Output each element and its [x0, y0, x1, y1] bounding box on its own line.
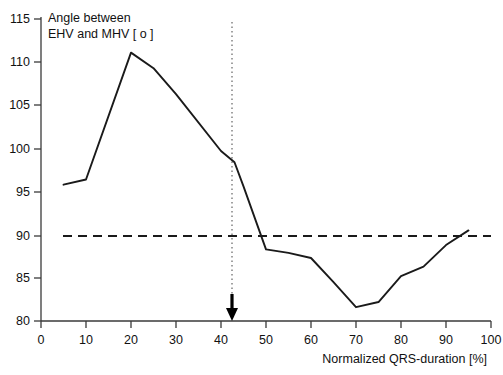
y-tick-label-95: 95 [16, 185, 30, 199]
x-tick-label-50: 50 [259, 333, 273, 347]
y-tick-label-80: 80 [16, 314, 30, 328]
y-tick-label-85: 85 [16, 271, 30, 285]
x-tick-label-40: 40 [214, 333, 228, 347]
y-tick-label-100: 100 [9, 142, 30, 156]
x-axis-title: Normalized QRS-duration [%] [322, 352, 487, 366]
chart-background [0, 0, 503, 375]
y-tick-label-110: 110 [10, 55, 30, 69]
line-chart: 115 110 105 100 95 90 85 80 0 10 20 30 4… [0, 0, 503, 375]
x-tick-label-70: 70 [349, 333, 363, 347]
y-tick-label-90: 90 [16, 229, 30, 243]
x-tick-label-20: 20 [124, 333, 138, 347]
plot-title-line1: Angle between [48, 11, 131, 25]
plot-title-line2: EHV and MHV [ o ] [48, 27, 154, 41]
x-tick-label-80: 80 [394, 333, 408, 347]
x-tick-label-30: 30 [169, 333, 183, 347]
x-tick-label-90: 90 [439, 333, 453, 347]
x-tick-label-100: 100 [481, 333, 502, 347]
x-tick-label-60: 60 [304, 333, 318, 347]
chart-figure: 115 110 105 100 95 90 85 80 0 10 20 30 4… [0, 0, 503, 375]
x-tick-label-10: 10 [79, 333, 93, 347]
x-tick-label-0: 0 [38, 333, 45, 347]
y-tick-label-105: 105 [9, 98, 30, 112]
y-tick-label-115: 115 [10, 12, 30, 26]
